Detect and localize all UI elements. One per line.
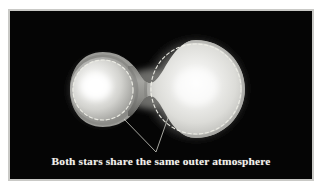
figure-caption: Both stars share the same outer atmosphe… bbox=[10, 154, 312, 168]
figure-plate: Both stars share the same outer atmosphe… bbox=[10, 11, 312, 179]
figure-root: Both stars share the same outer atmosphe… bbox=[0, 0, 322, 191]
leader-line-left bbox=[124, 119, 156, 152]
